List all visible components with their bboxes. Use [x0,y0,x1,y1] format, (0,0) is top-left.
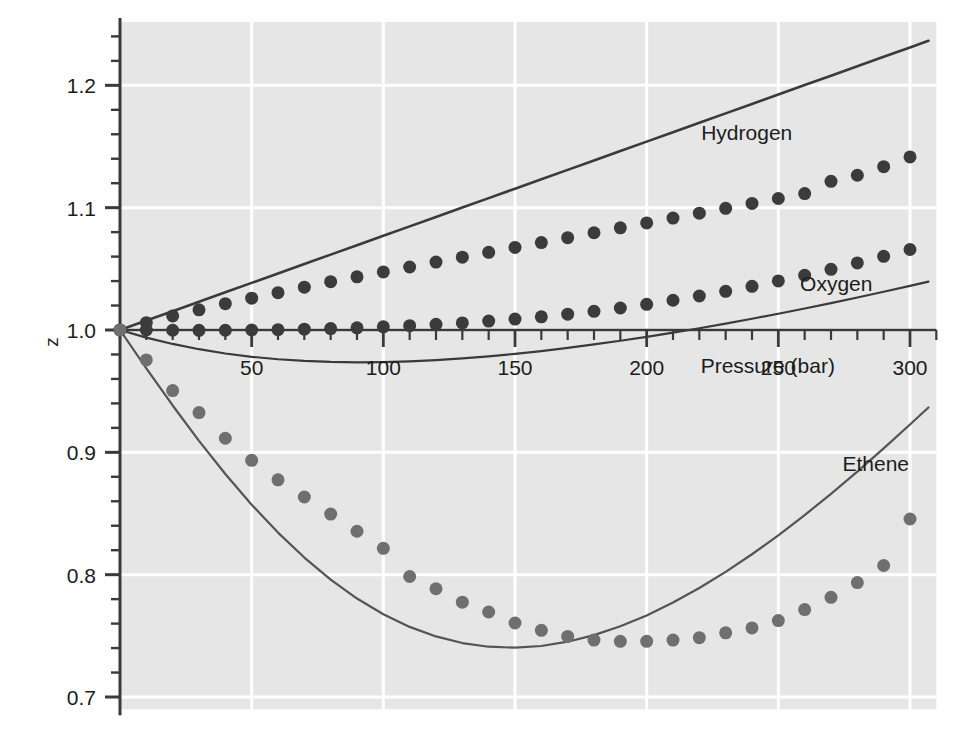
data-point [772,274,785,287]
data-point [456,251,469,264]
data-point [324,275,337,288]
data-point [904,150,917,163]
data-point [667,294,680,307]
data-point [272,323,285,336]
data-point [667,634,680,647]
y-axis-title: z [41,337,62,347]
data-point [851,256,864,269]
data-point [193,303,206,316]
data-point [509,241,522,254]
series-label-oxygen: Oxygen [800,272,872,295]
data-point [114,324,127,337]
data-point [588,634,601,647]
data-point [166,384,179,397]
series-label-ethene: Ethene [842,452,909,475]
data-point [193,324,206,337]
data-point [377,265,390,278]
data-point [298,281,311,294]
data-point [456,596,469,609]
data-point [746,197,759,210]
data-point [561,308,574,321]
data-point [693,631,706,644]
data-point [140,324,153,337]
data-point [693,289,706,302]
data-point [904,243,917,256]
data-point [825,175,838,188]
data-point [614,301,627,314]
data-point [851,169,864,182]
data-point [614,635,627,648]
data-point [851,576,864,589]
data-point [403,319,416,332]
concentration-factor-chart: 50100150200250300 0.70.80.91.01.11.2 Hyd… [0,0,968,746]
axis-titles: z [41,337,62,347]
data-point [509,313,522,326]
y-tick-label: 1.1 [67,197,96,220]
data-point [456,316,469,329]
x-tick-label: 300 [892,356,927,379]
y-tick-label: 0.7 [67,686,96,709]
data-point [719,285,732,298]
data-point [719,202,732,215]
data-point [877,160,890,173]
series-label-hydrogen: Hydrogen [701,121,792,144]
chart-figure: 50100150200250300 0.70.80.91.01.11.2 Hyd… [0,0,968,746]
y-tick-label: 1.2 [67,74,96,97]
data-point [403,261,416,274]
x-axis-title: Pressure (bar) [701,354,835,377]
data-point [298,490,311,503]
data-point [535,310,548,323]
data-point [667,212,680,225]
data-point [640,216,653,229]
x-tick-label: 50 [240,356,263,379]
data-point [588,226,601,239]
data-point [193,406,206,419]
data-point [798,603,811,616]
data-point [298,323,311,336]
data-point [772,192,785,205]
data-point [719,626,732,639]
data-point [482,246,495,259]
data-point [877,559,890,572]
data-point [245,292,258,305]
data-point [482,315,495,328]
data-point [430,582,443,595]
data-point [877,250,890,263]
y-tick-label: 0.8 [67,564,96,587]
data-point [324,508,337,521]
data-point [324,322,337,335]
data-point [535,236,548,249]
data-point [693,207,706,220]
data-point [772,614,785,627]
y-tick-label: 1.0 [67,319,96,342]
data-point [798,187,811,200]
data-point [561,231,574,244]
data-point [351,270,364,283]
data-point [377,542,390,555]
data-point [351,321,364,334]
data-point [245,324,258,337]
data-point [272,473,285,486]
x-tick-label: 200 [629,356,664,379]
data-point [640,298,653,311]
data-point [403,570,416,583]
data-point [219,324,232,337]
data-point [377,320,390,333]
data-point [746,621,759,634]
data-point [430,318,443,331]
data-point [535,624,548,637]
x-tick-label: 100 [366,356,401,379]
data-point [166,324,179,337]
data-point [140,353,153,366]
data-point [614,221,627,234]
data-point [245,454,258,467]
data-point [166,309,179,322]
data-point [640,635,653,648]
data-point [588,305,601,318]
data-point [825,591,838,604]
data-point [272,286,285,299]
data-point [482,605,495,618]
x-tick-label: 150 [497,356,532,379]
data-point [219,297,232,310]
data-point [219,432,232,445]
